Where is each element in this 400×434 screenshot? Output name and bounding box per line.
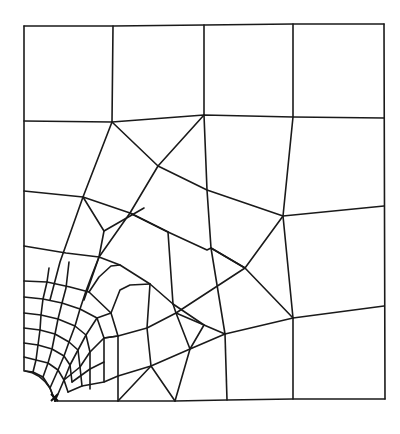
- mesh-edge-line: [112, 26, 113, 122]
- mesh-canvas: [0, 0, 400, 434]
- mesh-edge-line: [72, 362, 104, 382]
- mesh-edges: [24, 24, 385, 401]
- mesh-edge-line: [24, 328, 82, 386]
- mesh-edge-line: [384, 24, 385, 399]
- mesh-edge-line: [24, 191, 168, 232]
- mesh-edge-line: [168, 232, 173, 304]
- mesh-edge-line: [64, 313, 204, 380]
- mesh-edge-line: [130, 213, 283, 268]
- mesh-edge-line: [147, 284, 151, 366]
- mesh-edge-line: [283, 117, 293, 318]
- mesh-edge-line: [118, 366, 175, 401]
- mesh-edge-line: [83, 197, 104, 257]
- mesh-edge-line: [176, 268, 245, 313]
- mesh-edge-line: [112, 122, 384, 216]
- mesh-edge-line: [68, 334, 225, 392]
- mesh-edge-line: [204, 115, 225, 334]
- fe-mesh-diagram: [0, 0, 400, 434]
- mesh-edge-line: [55, 399, 385, 401]
- mesh-edge-line: [225, 334, 227, 400]
- mesh-edge-line: [225, 306, 384, 334]
- mesh-edge-line: [104, 336, 118, 338]
- mesh-edge-line: [33, 268, 49, 372]
- mesh-edge-line: [111, 284, 150, 313]
